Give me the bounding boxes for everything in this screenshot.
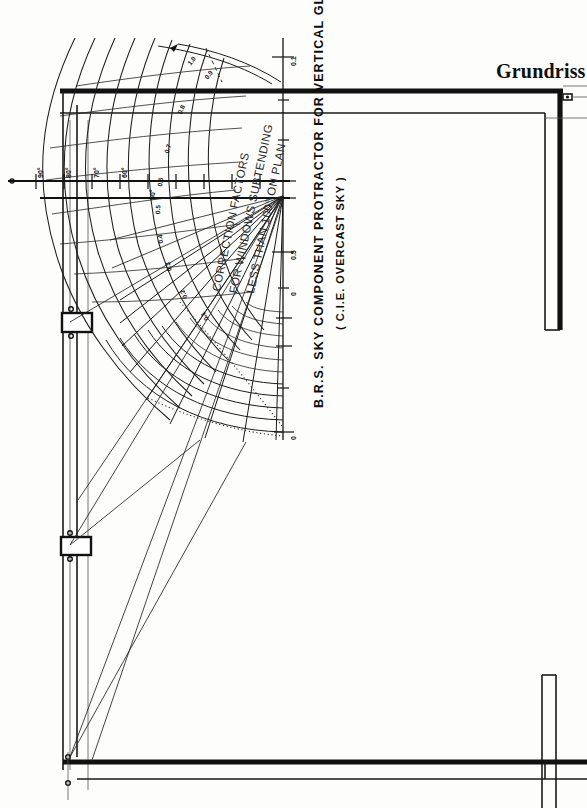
window-opening-lower xyxy=(66,752,71,800)
floor-plan-walls xyxy=(60,86,587,808)
sight-lines xyxy=(70,196,283,760)
drawing-page: .wall-thick { fill:none; stroke:#111; st… xyxy=(0,0,587,808)
technical-drawing-canvas: .wall-thick { fill:none; stroke:#111; st… xyxy=(0,0,587,808)
arc-arrowhead xyxy=(170,44,178,52)
